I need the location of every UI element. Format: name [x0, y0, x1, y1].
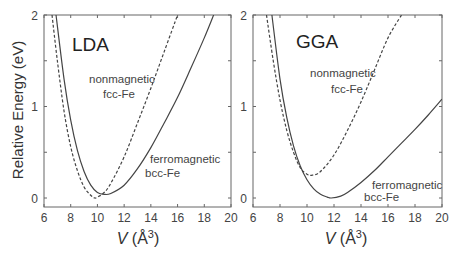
x-tick-14: 14	[354, 211, 368, 225]
panel-lda: 2 1 0 6 8 10 12 14 16 18 20 LDA nonmagne…	[31, 9, 238, 247]
x-tick-12: 12	[117, 211, 131, 225]
annotation-fcc-fe: fcc-Fe	[103, 88, 135, 100]
annotation-nonmagnetic: nonmagnetic	[310, 67, 376, 79]
panel-gga: 2 1 0 6 8 10 12 14 16 18 20 GGA nonmagne…	[240, 9, 449, 247]
x-tick-14: 14	[144, 211, 158, 225]
x-tick-20: 20	[224, 211, 238, 225]
panel-title-gga: GGA	[296, 31, 339, 52]
annotation-ferromagnetic: ferromagnetic	[372, 179, 443, 191]
x-tick-16: 16	[171, 211, 185, 225]
x-axis-label: V (Å3)	[117, 228, 160, 247]
x-tick-20: 20	[435, 211, 449, 225]
x-axis-label: V (Å3)	[325, 228, 368, 247]
y-tick-0: 0	[240, 192, 247, 206]
annotation-bcc-fe: bcc-Fe	[145, 167, 180, 179]
x-tick-8: 8	[277, 211, 284, 225]
y-tick-2: 2	[31, 9, 38, 23]
annotation-fcc-fe: fcc-Fe	[331, 83, 363, 95]
x-tick-10: 10	[300, 211, 314, 225]
x-tick-6: 6	[250, 211, 257, 225]
x-tick-12: 12	[327, 211, 341, 225]
x-tick-8: 8	[67, 211, 74, 225]
y-axis-label: Relative Energy (eV)	[9, 41, 26, 179]
x-tick-6: 6	[41, 211, 48, 225]
annotation-nonmagnetic: nonmagnetic	[89, 73, 155, 85]
annotation-bcc-fe: bcc-Fe	[364, 191, 399, 203]
y-tick-0: 0	[31, 192, 38, 206]
x-tick-10: 10	[91, 211, 105, 225]
x-tick-labels: 6 8 10 12 14 16 18 20	[250, 211, 449, 225]
x-tick-18: 18	[408, 211, 422, 225]
y-tick-1: 1	[240, 100, 247, 114]
annotation-ferromagnetic: ferromagnetic	[150, 153, 221, 165]
y-tick-1: 1	[31, 100, 38, 114]
chart-figure: Relative Energy (eV) 2 1 0 6 8 10 12 14 …	[0, 0, 458, 253]
x-tick-labels: 6 8 10 12 14 16 18 20	[41, 211, 238, 225]
x-tick-16: 16	[381, 211, 395, 225]
panel-title-lda: LDA	[72, 34, 109, 55]
x-tick-18: 18	[198, 211, 212, 225]
y-tick-2: 2	[240, 9, 247, 23]
